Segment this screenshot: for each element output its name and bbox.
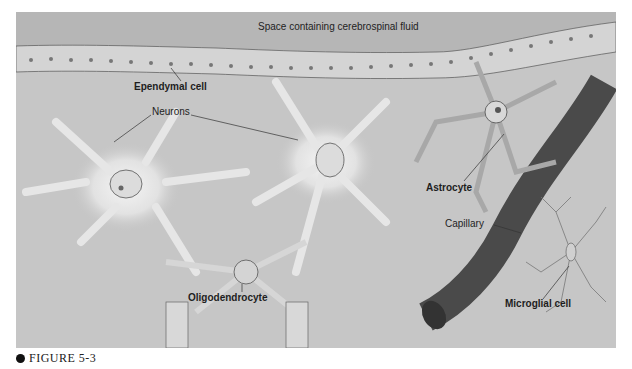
label-astrocyte: Astrocyte — [426, 182, 472, 193]
bullet-icon — [16, 354, 25, 363]
figure-caption: FIGURE 5-3 — [16, 351, 96, 366]
label-csf-space: Space containing cerebrospinal fluid — [258, 21, 419, 32]
label-oligodendrocyte: Oligodendrocyte — [188, 292, 267, 303]
diagram-panel: Space containing cerebrospinal fluid Epe… — [16, 12, 616, 348]
label-neurons: Neurons — [152, 106, 190, 117]
label-capillary: Capillary — [445, 218, 484, 229]
label-microglial-cell: Microglial cell — [505, 298, 571, 309]
label-ependymal-cell: Ependymal cell — [134, 81, 207, 92]
caption-text: FIGURE 5-3 — [29, 351, 96, 365]
